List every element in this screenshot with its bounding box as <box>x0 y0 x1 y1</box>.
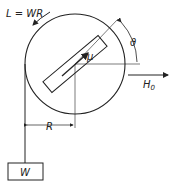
weight-label: W <box>20 167 31 178</box>
torque-label: L = WR <box>6 8 43 19</box>
angle-label: ϑ <box>130 37 136 48</box>
angle-ray <box>75 19 118 64</box>
field-label: H0 <box>143 79 156 92</box>
moment-label: μ <box>86 51 93 62</box>
diagram: L = WR μ ϑ H0 R W <box>0 0 177 185</box>
radius-label: R <box>46 121 53 132</box>
